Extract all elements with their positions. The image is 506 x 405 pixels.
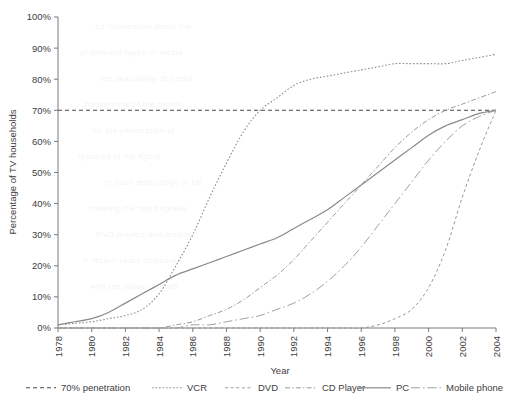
legend-label-mobile-phone: Mobile phone xyxy=(446,382,503,393)
y-tick-label: 0% xyxy=(37,322,51,333)
x-tick-label: 2002 xyxy=(457,336,468,357)
y-tick-label: 100% xyxy=(27,11,52,22)
y-tick-label: 10% xyxy=(32,291,52,302)
legend-label-70-penetration: 70% penetration xyxy=(61,382,130,393)
x-tick-label: 1998 xyxy=(390,336,401,357)
legend-label-vcr: VCR xyxy=(187,382,207,393)
x-tick-label: 1978 xyxy=(53,336,64,357)
x-tick-label: 1994 xyxy=(322,336,333,357)
y-axis-title: Percentage of TV households xyxy=(7,109,18,234)
y-tick-label: 70% xyxy=(32,105,52,116)
line-chart: 0%10%20%30%40%50%60%70%80%90%100% 197819… xyxy=(0,0,506,405)
y-tick-label: 30% xyxy=(32,229,52,240)
y-tick-label: 80% xyxy=(32,74,52,85)
legend-label-cd-player: CD Player xyxy=(322,382,365,393)
x-tick-label: 1984 xyxy=(154,336,165,357)
x-tick-label: 1982 xyxy=(120,336,131,357)
x-tick-label: 1980 xyxy=(86,336,97,357)
x-tick-label: 1996 xyxy=(356,336,367,357)
x-tick-label: 1990 xyxy=(255,336,266,357)
x-tick-label: 2004 xyxy=(491,336,502,357)
chart-container: 0%10%20%30%40%50%60%70%80%90%100% 197819… xyxy=(0,0,506,405)
y-tick-label: 40% xyxy=(32,198,52,209)
x-axis-title: Year xyxy=(270,365,289,376)
legend-label-dvd: DVD xyxy=(258,382,278,393)
x-tick-label: 1986 xyxy=(187,336,198,357)
x-tick-label: 2000 xyxy=(423,336,434,357)
x-tick-label: 1988 xyxy=(221,336,232,357)
legend-label-pc: PC xyxy=(396,382,409,393)
y-tick-label: 90% xyxy=(32,43,52,54)
y-tick-label: 20% xyxy=(32,260,52,271)
y-tick-label: 60% xyxy=(32,136,52,147)
y-tick-label: 50% xyxy=(32,167,52,178)
x-tick-label: 1992 xyxy=(288,336,299,357)
